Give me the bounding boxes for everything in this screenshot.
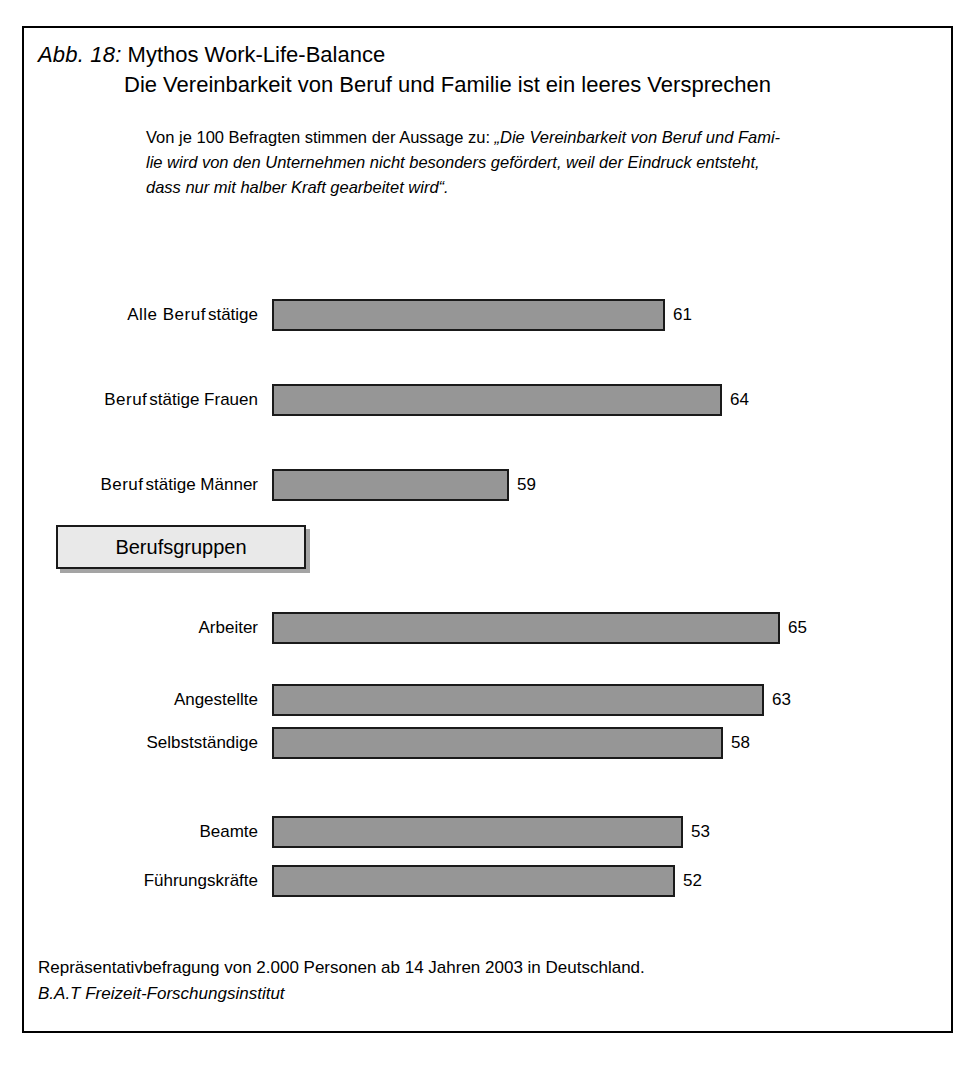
bar-row: Beamte53 <box>24 815 743 849</box>
bar-category-label: Arbeiter <box>26 611 258 645</box>
bar <box>272 816 683 848</box>
bar-value-label: 65 <box>788 611 807 645</box>
bar-category-label: Führungskräfte <box>26 864 258 898</box>
bar-category-label: Berufstätige Männer <box>26 468 258 502</box>
bar-category-label-part: Alle Beruf <box>127 305 208 324</box>
bar-category-label-part: stätige Männer <box>146 475 258 494</box>
footer-source: B.A.T Freizeit-Forschungsinstitut <box>38 981 928 1007</box>
bar-value-label: 53 <box>691 815 710 849</box>
group-divider-label: Berufsgruppen <box>115 536 246 558</box>
bar-value-label: 59 <box>517 468 536 502</box>
footer-survey-note: Repräsentativbefragung von 2.000 Persone… <box>38 955 928 981</box>
bar <box>272 469 509 501</box>
bar-row: Berufstätige Männer59 <box>24 468 569 502</box>
bar <box>272 727 723 759</box>
bar-category-label-part: Beruf <box>100 475 145 494</box>
bar-category-label: Selbstständige <box>26 726 258 760</box>
bar-row: Alle Berufstätige61 <box>24 298 725 332</box>
bar-category-label: Beamte <box>26 815 258 849</box>
bar-value-label: 58 <box>731 726 750 760</box>
bar-category-label-part: Führungskräfte <box>144 871 258 890</box>
bar <box>272 384 722 416</box>
bar-category-label-part: Beamte <box>199 822 258 841</box>
bar-category-label: Angestellte <box>26 683 258 717</box>
bar-category-label-part: Beruf <box>104 390 149 409</box>
bar-value-label: 52 <box>683 864 702 898</box>
bar-category-label-part: Angestellte <box>174 690 258 709</box>
bar-category-label: Berufstätige Frauen <box>26 383 258 417</box>
bar <box>272 612 780 644</box>
bar <box>272 299 665 331</box>
bar-value-label: 61 <box>673 298 692 332</box>
bar-row: Arbeiter65 <box>24 611 840 645</box>
bar <box>272 684 764 716</box>
bar-value-label: 64 <box>730 383 749 417</box>
bar-category-label: Alle Berufstätige <box>26 298 258 332</box>
bar <box>272 865 675 897</box>
bar-category-label-part: stätige <box>208 305 258 324</box>
bar-category-label-part: Arbeiter <box>198 618 258 637</box>
bar-category-label-part: stätige Frauen <box>149 390 258 409</box>
figure-frame: Abb. 18:Mythos Work-Life-Balance Die Ver… <box>22 26 953 1033</box>
group-divider-berufsgruppen: Berufsgruppen <box>56 525 306 569</box>
bar-row: Selbstständige58 <box>24 726 783 760</box>
bar-row: Angestellte63 <box>24 683 824 717</box>
bar-row: Berufstätige Frauen64 <box>24 383 782 417</box>
figure-footer: Repräsentativbefragung von 2.000 Persone… <box>38 955 928 1007</box>
bar-row: Führungskräfte52 <box>24 864 735 898</box>
bar-category-label-part: Selbstständige <box>146 733 258 752</box>
bar-value-label: 63 <box>772 683 791 717</box>
